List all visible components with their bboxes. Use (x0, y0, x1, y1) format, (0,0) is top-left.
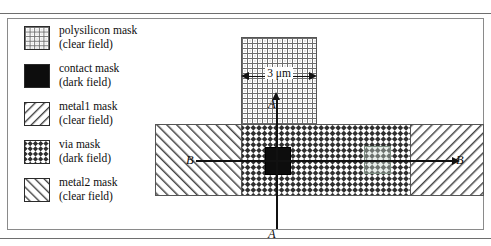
section-line-aa (276, 96, 278, 229)
section-label-b-right: B (456, 153, 464, 168)
dimension-text-wrap: 3 μm (241, 67, 317, 79)
mask-layout-diagram: 3 μm A A B B (0, 0, 491, 246)
section-label-a-bottom: A (268, 227, 276, 242)
figure-root: polysilicon mask (clear field) contact m… (0, 0, 491, 246)
dimension-value: 3 μm (265, 67, 293, 79)
dimension-callout: 3 μm (241, 69, 317, 83)
section-label-b-left: B (186, 153, 194, 168)
section-line-bb (196, 160, 454, 162)
section-label-a-top: A (268, 97, 276, 112)
